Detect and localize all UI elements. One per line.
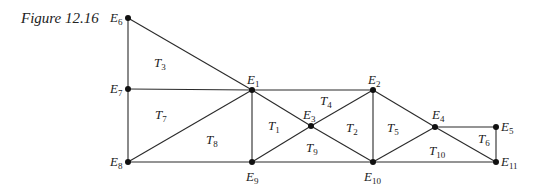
node-e7 xyxy=(125,86,131,92)
edge-e2-e4 xyxy=(373,90,435,127)
node-label-e6: E6 xyxy=(109,10,123,27)
node-label-e4: E4 xyxy=(431,107,445,124)
node-label-e5: E5 xyxy=(500,119,514,136)
node-labels: E1E2E3E4E5E6E7E8E9E10E11 xyxy=(109,10,518,186)
edge-e8-e1 xyxy=(128,90,252,162)
edge-e3-e10 xyxy=(311,126,373,162)
node-e11 xyxy=(493,159,499,165)
edge-e7-e1 xyxy=(128,89,252,90)
edge-e10-e4 xyxy=(373,127,435,162)
node-label-e7: E7 xyxy=(109,81,123,98)
triangular-mesh-diagram: E1E2E3E4E5E6E7E8E9E10E11 T1T2T3T4T5T6T7T… xyxy=(0,0,543,194)
triangle-label-t4: T4 xyxy=(320,93,332,110)
node-e9 xyxy=(249,159,255,165)
triangle-label-t5: T5 xyxy=(387,120,399,137)
edge-e6-e1 xyxy=(128,18,252,90)
node-e5 xyxy=(493,124,499,130)
node-e4 xyxy=(432,124,438,130)
triangle-label-t8: T8 xyxy=(206,132,218,149)
node-e10 xyxy=(370,159,376,165)
node-e6 xyxy=(125,15,131,21)
triangle-label-t6: T6 xyxy=(478,131,490,148)
node-label-e1: E1 xyxy=(246,72,259,89)
triangle-label-t2: T2 xyxy=(346,120,358,137)
node-label-e2: E2 xyxy=(367,72,380,89)
triangle-label-t1: T1 xyxy=(268,118,280,135)
node-label-e11: E11 xyxy=(500,154,518,171)
triangle-label-t3: T3 xyxy=(154,55,166,72)
node-e8 xyxy=(125,159,131,165)
edge-e9-e3 xyxy=(252,126,311,162)
node-label-e8: E8 xyxy=(109,154,123,171)
triangle-label-t7: T7 xyxy=(155,107,167,124)
node-label-e10: E10 xyxy=(363,169,381,186)
node-label-e3: E3 xyxy=(302,107,316,124)
node-label-e9: E9 xyxy=(245,169,259,186)
triangle-label-t9: T9 xyxy=(306,140,318,157)
triangle-label-t10: T10 xyxy=(429,143,446,160)
